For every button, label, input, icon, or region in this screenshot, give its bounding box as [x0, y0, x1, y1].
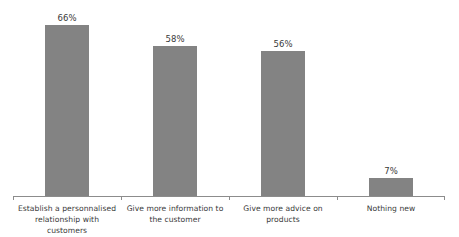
axis-tick-2	[229, 196, 230, 200]
category-label-0: Establish a personnalised relationship w…	[13, 203, 121, 236]
bar-value-label-1: 58%	[121, 34, 229, 44]
bar-1	[153, 46, 197, 196]
axis-tick-3	[337, 196, 338, 200]
bar-value-label-0: 66%	[13, 13, 121, 23]
bar-group-1: 58%	[121, 0, 229, 196]
bar-group-0: 66%	[13, 0, 121, 196]
bars-container: 66% 58% 56% 7%	[13, 0, 445, 196]
axis-tick-4	[444, 196, 445, 200]
x-axis-ticks	[13, 196, 445, 200]
bar-0	[45, 25, 89, 196]
bar-3	[369, 178, 413, 196]
bar-2	[261, 51, 305, 196]
plot-area: 66% 58% 56% 7%	[13, 0, 445, 196]
bar-group-2: 56%	[229, 0, 337, 196]
bar-value-label-3: 7%	[337, 166, 445, 176]
category-label-3: Nothing new	[337, 203, 445, 236]
category-labels: Establish a personnalised relationship w…	[13, 203, 445, 236]
axis-tick-0	[13, 196, 14, 200]
bar-chart: 66% 58% 56% 7% Establish a personnal	[0, 0, 459, 237]
axis-tick-1	[121, 196, 122, 200]
category-label-2: Give more advice on products	[229, 203, 337, 236]
bar-value-label-2: 56%	[229, 39, 337, 49]
bar-group-3: 7%	[337, 0, 445, 196]
category-label-1: Give more information to the customer	[121, 203, 229, 236]
